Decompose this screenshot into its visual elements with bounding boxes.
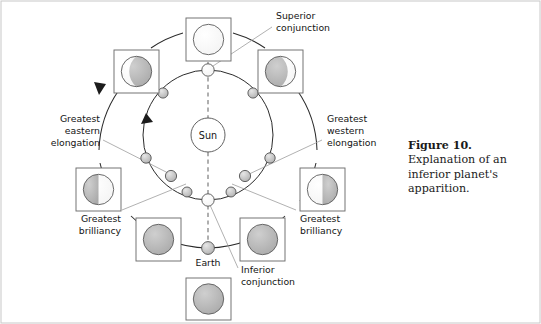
phase-disk-new [193,284,223,314]
planet-node-brilliancy-right [226,187,236,197]
label-eastern-elongation-line-1: Greatest [60,113,100,124]
phase-disk-full [193,24,223,54]
label-superior-conjunction-line-1: Superior [276,10,316,21]
label-brilliancy-left-line-2: brilliancy [79,225,122,236]
figure-container: Sun Earth [0,0,541,324]
label-western-elongation-line-1: Greatest [327,113,367,124]
label-brilliancy-left-line-1: Greatest [81,213,121,224]
upper-right-phase-box [258,50,303,93]
label-greatest-brilliancy-right: Greatest brilliancy [300,213,343,236]
planet-node-eastern-elongation [165,170,176,181]
label-greatest-brilliancy-left: Greatest brilliancy [79,213,122,236]
planet-node-mid-right [265,153,275,163]
upper-left-phase-box [114,50,159,93]
label-inferior-conjunction-line-2: conjunction [241,276,295,287]
figure-caption-title: Figure 10. [408,139,538,153]
label-inferior-conjunction-line-1: Inferior [241,264,275,275]
label-eastern-elongation-line-2: eastern [65,125,100,136]
brilliancy-left-phase-box [136,218,181,261]
label-eastern-elongation-line-3: elongation [51,137,100,148]
label-brilliancy-right-line-2: brilliancy [300,225,343,236]
figure-caption: Figure 10. Explanation of an inferior pl… [408,139,538,197]
label-western-elongation-line-2: western [327,125,364,136]
eastern-elongation-phase-box [76,168,121,211]
planet-node-brilliancy-left [182,187,192,197]
earth-label: Earth [196,257,221,268]
planet-node-mid-left [141,153,151,163]
western-elongation-phase-box [300,168,345,211]
sun-label: Sun [199,130,217,141]
superior-conjunction-phase-box [186,18,231,61]
earth-dot [202,242,215,255]
planet-node-inferior-conjunction [202,194,214,206]
planet-node-superior-conjunction [202,64,214,76]
planet-node-upper-right [248,88,258,98]
label-brilliancy-right-line-1: Greatest [300,213,340,224]
sun: Sun [191,118,225,152]
label-western-elongation-line-3: elongation [327,137,376,148]
planet-node-western-elongation [239,170,250,181]
figure-caption-body: Explanation of an inferior planet's appa… [408,153,538,196]
inferior-conjunction-phase-box [186,278,231,320]
brilliancy-right-phase-box [240,218,285,261]
label-superior-conjunction-line-2: conjunction [276,22,330,33]
